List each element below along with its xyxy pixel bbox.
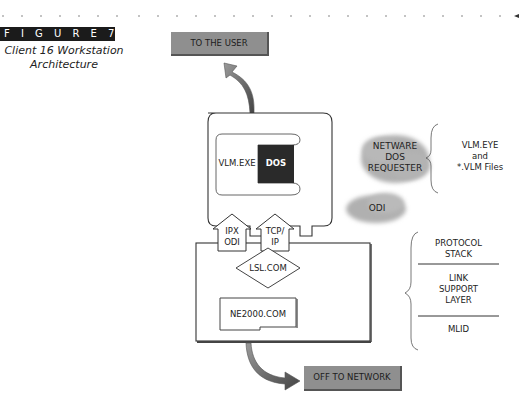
diagram-lines <box>0 0 523 412</box>
requester-line-2: DOS <box>360 152 430 163</box>
ne2000-com-label: NE2000.COM <box>220 309 296 320</box>
brace-stack <box>405 232 418 350</box>
vlm-and-line: and <box>440 151 520 162</box>
ip-line: IP <box>261 237 289 248</box>
requester-line-3: REQUESTER <box>360 163 430 174</box>
odi-line: ODI <box>218 237 246 248</box>
lsl-com-label: LSL.COM <box>236 263 300 274</box>
vlm-files-line: *.VLM Files <box>440 162 520 173</box>
link-support-layer-label: LINK SUPPORT LAYER <box>418 273 499 306</box>
vlm-exe-label: VLM.EXE <box>217 158 257 169</box>
vlm-eye-line: VLM.EYE <box>440 140 520 151</box>
mlid-label: MLID <box>418 324 499 335</box>
to-the-user-box: TO THE USER <box>171 32 269 56</box>
arrow-off-to-network-icon <box>246 343 300 390</box>
vlm-files-label: VLM.EYE and *.VLM Files <box>440 140 520 173</box>
ipx-odi-label: IPX ODI <box>218 226 246 248</box>
ipx-line: IPX <box>218 226 246 237</box>
layer-line: LAYER <box>418 295 499 306</box>
protocol-line: PROTOCOL <box>418 238 499 249</box>
tcp-line: TCP/ <box>261 226 289 237</box>
netware-dos-requester-label: NETWARE DOS REQUESTER <box>360 141 430 174</box>
stack-line: STACK <box>418 249 499 260</box>
protocol-stack-label: PROTOCOL STACK <box>418 238 499 260</box>
support-line: SUPPORT <box>418 284 499 295</box>
off-to-network-box: OFF TO NETWORK <box>304 366 402 391</box>
dos-label: DOS <box>258 158 294 169</box>
odi-cloud-label: ODI <box>356 203 398 214</box>
link-line: LINK <box>418 273 499 284</box>
requester-line-1: NETWARE <box>360 141 430 152</box>
tcpip-label: TCP/ IP <box>261 226 289 248</box>
arrow-to-user-icon <box>224 63 254 113</box>
